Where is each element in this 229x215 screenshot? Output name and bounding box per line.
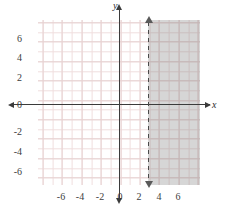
- y-tick-label: 4: [4, 52, 22, 63]
- x-tick-label: 2: [130, 191, 148, 202]
- y-tick-label: 0: [4, 99, 22, 110]
- x-tick-label: -6: [52, 191, 70, 202]
- boundary-arrow-down-icon: [145, 181, 153, 188]
- y-tick-label: 2: [4, 72, 22, 83]
- x-tick-label: -4: [71, 191, 89, 202]
- x-tick-label: 0: [111, 191, 129, 202]
- y-tick-label: 6: [4, 33, 22, 44]
- y-tick-label: -4: [4, 146, 22, 157]
- shaded-solution-region: [148, 20, 200, 185]
- x-axis-arrow-right-icon: [205, 102, 211, 108]
- boundary-line-dashed: [148, 22, 150, 183]
- x-axis-label: x: [212, 99, 216, 110]
- y-tick-label: -2: [4, 126, 22, 137]
- y-axis-label: y: [113, 0, 117, 11]
- x-tick-label: 4: [150, 191, 168, 202]
- y-tick-label: -6: [4, 166, 22, 177]
- y-axis-line: [119, 8, 120, 200]
- boundary-arrow-up-icon: [145, 16, 153, 23]
- x-tick-label: -2: [91, 191, 109, 202]
- x-tick-label: 6: [169, 191, 187, 202]
- x-axis-line: [12, 104, 210, 105]
- graph-screenshot: x y 6 4 2 0 -2 -4 -6 -6 -4 -2 0 2 4 6: [0, 0, 229, 215]
